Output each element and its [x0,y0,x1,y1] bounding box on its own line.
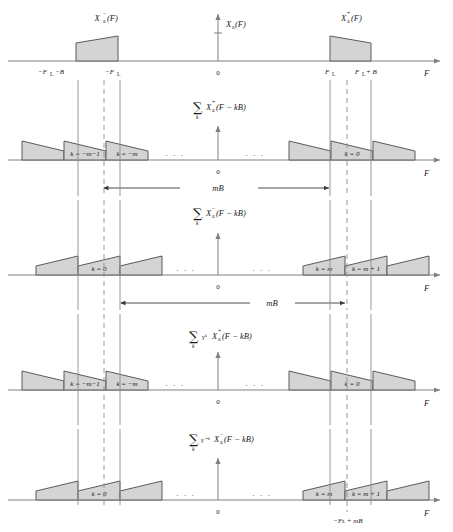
expr-base: X [211,331,218,341]
panel-1-title-left-sub: a [103,18,106,24]
expr-sup: + [212,99,215,105]
bottom-annotation: −Fʟ + mB [333,517,363,525]
replica-label: k = 0 [92,490,107,498]
expr-sup: − [212,205,215,211]
expr-sup: − [220,431,223,437]
panel-1-title-center-arg: (F) [235,19,246,29]
tick-neg-fl-b-sub: L [50,71,54,77]
panel-5: ∑ k γ⁻ᵏ X a − (F − kB) 0 F · · · · · · k… [8,431,440,525]
replica-shape [22,371,64,390]
expr-arg: (F − kB) [216,102,246,112]
panel-1-title-left-sup: − [103,10,106,16]
panel-1-title-left-arg: (F) [107,13,118,23]
span-label: mB [266,298,277,308]
origin-label: 0 [216,69,220,77]
span-label: mB [212,183,223,193]
replica-label: k = −m−1 [70,150,99,158]
panel-1-title-center: X [225,19,232,29]
summation-symbol: ∑ [193,206,203,221]
expr-arg: (F − kB) [222,331,252,341]
expr-sub: a [212,213,215,219]
origin-label: 0 [216,398,220,406]
replica-shape [289,371,331,390]
replica-label: k = 0 [92,265,107,273]
origin-label: 0 [216,508,220,516]
spectrum-shape-negative [76,36,118,61]
gamma-factor: γ⁻ᵏ [201,436,211,444]
panel-3: ∑ k X a − (F − kB) 0 F · · · · · · k = 0… [8,205,440,308]
ellipsis-right: · · · [252,265,272,275]
tick-neg-fl: −F [105,68,115,76]
expr-sup: + [218,328,221,334]
tick-fl-b: F [354,68,360,76]
ellipsis-left: · · · [176,490,196,500]
span-arrow-mb: mB [104,183,329,193]
axis-label-f-2: F [423,168,430,178]
summation-symbol: ∑ [189,432,199,447]
replica-shape [373,371,415,390]
origin-label: 0 [216,168,220,176]
origin-label: 0 [216,283,220,291]
ellipsis-left: · · · [165,380,185,390]
ellipsis-left: · · · [176,265,196,275]
panel-2: ∑ k X a + (F − kB) 0 F · · · · · · k = −… [8,99,440,193]
expr-base: X [205,102,212,112]
panel-4: ∑ k γᵏ X a + (F − kB) 0 F · · · · · · k … [8,328,440,408]
spectrum-figure: X a − (F) X a (F) X a + (F) −F L −B −F L… [0,0,453,532]
gamma-factor: γᵏ [202,333,208,341]
expr-sub: a [220,439,223,445]
summation-symbol: ∑ [189,329,199,344]
axis-label-f-1: F [423,68,430,78]
axis-label-f-4: F [423,398,430,408]
panel-1-tick-labels: −F L −B −F L 0 F L F L + B F [38,68,430,78]
replica-label: k = m + 1 [352,265,380,273]
panel-1-title-right: X [340,13,347,23]
tick-fl: F [324,68,330,76]
panel-1-title-right-sup: + [347,10,350,16]
expr-base: X [205,208,212,218]
tick-fl-sub: L [332,71,336,77]
replica-shape [289,141,331,160]
expr-sub: a [218,336,221,342]
expr-arg: (F − kB) [216,208,246,218]
tick-neg-fl-sub: L [117,71,121,77]
axis-label-f-5: F [423,508,430,518]
ellipsis-right: · · · [245,150,265,160]
expr-base: X [213,434,220,444]
tick-neg-fl-b: −F [38,68,48,76]
replica-shape [387,256,429,275]
expr-arg: (F − kB) [224,434,254,444]
panel-1-title-right-sub: a [347,18,350,24]
panel-1: X a − (F) X a (F) X a + (F) −F L −B −F L… [8,10,440,78]
replica-shape [373,141,415,160]
ellipsis-left: · · · [165,150,185,160]
replica-shape [22,141,64,160]
spectrum-shape-positive [330,36,371,61]
axis-label-f-3: F [423,283,430,293]
replica-label: k = m + 1 [352,490,380,498]
tick-neg-fl-b-rest: −B [55,68,65,76]
replica-shape [36,256,78,275]
ellipsis-right: · · · [252,490,272,500]
tick-fl-b-rest: + B [366,68,377,76]
replica-shape [36,481,78,500]
replica-shape [120,256,162,275]
replica-label: k = −m−1 [70,380,99,388]
replica-shape [120,481,162,500]
summation-symbol: ∑ [193,100,203,115]
replica-shape [387,481,429,500]
panel-1-title-left: X [93,13,100,23]
expr-sub: a [212,107,215,113]
panel-1-title-right-arg: (F) [351,13,362,23]
ellipsis-right: · · · [245,380,265,390]
span-arrow-mb: mB [121,298,345,308]
